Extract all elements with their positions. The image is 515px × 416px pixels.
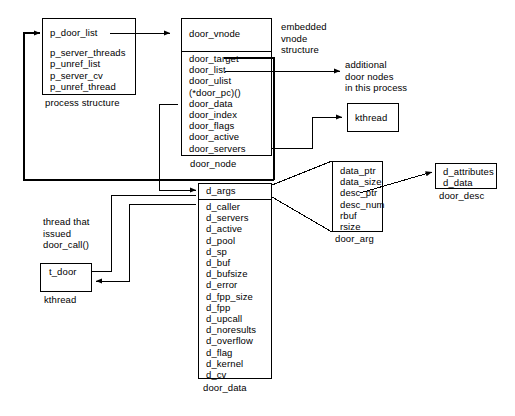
field-d-args: d_args <box>206 185 274 196</box>
process-structure-fields: p_door_list p_server_threads p_unref_lis… <box>46 27 136 92</box>
note-thread-line-2: issued <box>43 228 90 240</box>
door-desc-caption: door_desc <box>439 190 484 202</box>
field-p-door-list: p_door_list <box>50 27 136 38</box>
kthread-bottom-caption: kthread <box>44 294 76 306</box>
field-d-sp: d_sp <box>206 246 274 257</box>
field-door-list: door_list <box>189 64 273 75</box>
doors-structure-diagram: p_door_list p_server_threads p_unref_lis… <box>0 0 515 416</box>
door-arg-fields: data_ptr data_size desc_ptr desc_num rbu… <box>336 165 386 232</box>
field-d-error: d_error <box>206 279 274 290</box>
door-data-header-divider <box>198 199 272 200</box>
field-door-pc: (*door_pc)() <box>189 87 273 98</box>
field-d-kernel: d_kernel <box>206 358 274 369</box>
field-d-overflow: d_overflow <box>206 335 274 346</box>
note-embedded-vnode: embedded vnode structure <box>281 21 327 56</box>
field-rbuf: rbuf <box>340 210 386 221</box>
field-d-bufsize: d_bufsize <box>206 268 274 279</box>
field-t-door: t_door <box>49 266 95 277</box>
door-node-header-divider <box>181 51 272 52</box>
field-door-data: door_data <box>189 98 273 109</box>
field-d-fpp-size: d_fpp_size <box>206 291 274 302</box>
field-d-flag: d_flag <box>206 347 274 358</box>
kthread-top-label: kthread <box>355 112 387 124</box>
field-d-buf: d_buf <box>206 257 274 268</box>
note-additional-door-nodes: additional door nodes in this process <box>345 59 407 94</box>
field-p-server-threads: p_server_threads <box>50 47 136 58</box>
note-embedded-line-1: embedded <box>281 21 327 33</box>
field-p-unref-thread: p_unref_thread <box>50 81 136 92</box>
leader-dargs-top <box>272 161 332 185</box>
field-p-unref-list: p_unref_list <box>50 58 136 69</box>
field-d-pool: d_pool <box>206 235 274 246</box>
kthread-bottom-fields: t_door <box>45 266 95 277</box>
field-d-caller: d_caller <box>206 201 274 212</box>
field-d-upcall: d_upcall <box>206 313 274 324</box>
field-door-target: door_target <box>189 53 273 64</box>
d-args-field-wrap: d_args <box>202 185 274 196</box>
field-d-active: d_active <box>206 223 274 234</box>
note-calling-thread: thread that issued door_call() <box>43 216 90 251</box>
door-node-caption: door_node <box>190 158 236 170</box>
field-data-size: data_size <box>340 176 386 187</box>
process-structure-caption: process structure <box>45 97 120 109</box>
field-desc-num: desc_num <box>340 199 386 210</box>
field-door-ulist: door_ulist <box>189 75 273 86</box>
note-embedded-line-3: structure <box>281 44 327 56</box>
field-d-cv: d_cv <box>206 369 274 380</box>
wire-tdoor-to-dargs <box>92 195 196 271</box>
field-desc-ptr: desc_ptr <box>340 187 386 198</box>
field-d-noresults: d_noresults <box>206 324 274 335</box>
door-vnode-field-wrap: door_vnode <box>185 28 273 39</box>
field-d-data: d_data <box>443 177 499 188</box>
field-door-vnode: door_vnode <box>189 28 273 39</box>
door-node-fields: door_target door_list door_ulist (*door_… <box>185 53 273 154</box>
field-rsize: rsize <box>340 221 386 232</box>
field-door-flags: door_flags <box>189 120 273 131</box>
spacer <box>50 38 136 47</box>
field-door-active: door_active <box>189 131 273 142</box>
field-data-ptr: data_ptr <box>340 165 386 176</box>
note-thread-line-3: door_call() <box>43 239 90 251</box>
field-door-servers: door_servers <box>189 143 273 154</box>
field-door-index: door_index <box>189 109 273 120</box>
wire-doorservers-to-kthread <box>272 117 342 148</box>
note-additional-line-2: door nodes <box>345 71 407 83</box>
note-additional-line-1: additional <box>345 59 407 71</box>
field-p-server-cv: p_server_cv <box>50 70 136 81</box>
field-d-servers: d_servers <box>206 212 274 223</box>
leader-dargs-bottom <box>272 197 332 232</box>
door-data-caption: door_data <box>203 382 247 394</box>
door-arg-caption: door_arg <box>335 233 374 245</box>
field-d-attributes: d_attributes <box>443 166 499 177</box>
door-desc-fields: d_attributes d_data <box>439 166 499 188</box>
wire-dcaller-to-tdoor <box>96 204 196 281</box>
note-thread-line-1: thread that <box>43 216 90 228</box>
note-additional-line-3: in this process <box>345 82 407 94</box>
door-data-fields: d_caller d_servers d_active d_pool d_sp … <box>202 201 274 380</box>
field-d-fpp: d_fpp <box>206 302 274 313</box>
note-embedded-line-2: vnode <box>281 33 327 45</box>
